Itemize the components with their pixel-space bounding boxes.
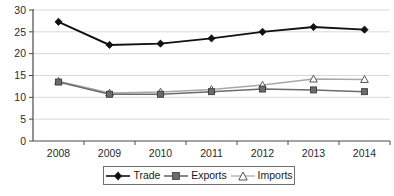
legend-label-trade: Trade — [133, 170, 160, 181]
x-tick-label-2011: 2011 — [200, 147, 223, 159]
trade-marker-icon — [105, 170, 131, 182]
series-trade — [55, 18, 368, 48]
legend-item-trade[interactable]: Trade — [105, 170, 160, 182]
y-tick-label-10: 10 — [14, 91, 26, 103]
figure-container: 0510152025302008200920102011201220132014… — [0, 0, 394, 196]
x-tick-label-2008: 2008 — [47, 147, 71, 159]
y-tick-label-5: 5 — [20, 113, 26, 125]
legend-item-exports[interactable]: Exports — [163, 170, 227, 182]
y-tick-label-0: 0 — [20, 135, 26, 147]
x-tick-label-2012: 2012 — [251, 147, 275, 159]
x-tick-label-2009: 2009 — [98, 147, 122, 159]
chart-legend: Trade Exports Imports — [103, 166, 295, 185]
x-tick-label-2013: 2013 — [302, 147, 326, 159]
legend-item-imports[interactable]: Imports — [230, 170, 293, 182]
y-tick-label-15: 15 — [14, 69, 26, 81]
figure-caption — [2, 188, 302, 196]
y-tick-label-20: 20 — [14, 47, 26, 59]
x-tick-label-2010: 2010 — [149, 147, 173, 159]
legend-label-imports: Imports — [258, 170, 293, 181]
imports-marker-icon — [230, 170, 256, 182]
x-tick-label-2014: 2014 — [353, 147, 377, 159]
legend-label-exports: Exports — [191, 170, 227, 181]
y-tick-label-25: 25 — [14, 26, 26, 38]
exports-marker-icon — [163, 170, 189, 182]
y-tick-label-30: 30 — [14, 4, 26, 16]
